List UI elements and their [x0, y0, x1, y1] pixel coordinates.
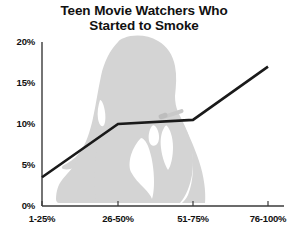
- y-tick-label-15: 15%: [0, 77, 35, 88]
- chart-canvas: [0, 0, 288, 242]
- x-tick-label-1-25: 1-25%: [7, 213, 77, 224]
- chart-container: Teen Movie Watchers Who Started to Smoke…: [0, 0, 288, 242]
- y-tick-label-10: 10%: [0, 118, 35, 129]
- x-tick-label-76-100: 76-100%: [233, 213, 288, 224]
- x-tick-label-51-75: 51-75%: [158, 213, 228, 224]
- y-tick-label-0: 0%: [0, 200, 35, 211]
- y-tick-label-20: 20%: [0, 36, 35, 47]
- x-tick-label-26-50: 26-50%: [83, 213, 153, 224]
- y-tick-label-5: 5%: [0, 159, 35, 170]
